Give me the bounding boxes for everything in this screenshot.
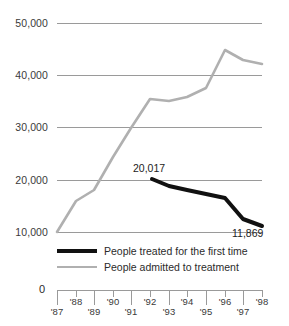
x-tick-label-93: '93 [163,307,175,317]
x-tick-label-97: '97 [237,307,249,317]
annotation-end-value: 11,869 [232,228,263,239]
y-tick-label: 30,000 [0,122,48,133]
x-tick-label-92: '92 [144,297,156,307]
x-tick-label-98: '98 [256,297,268,307]
x-tick-label-87: '87 [51,307,63,317]
chart-container: 50,000 40,000 30,000 20,000 10,000 0 20,… [0,0,289,326]
x-tick-label-89: '89 [88,307,100,317]
legend-item-admitted: People admitted to treatment [57,259,287,275]
y-tick-20000: 20,000 [0,175,52,186]
y-tick-label: 10,000 [0,227,48,238]
x-tick-label-91: '91 [125,307,137,317]
x-tick-label-94: '94 [181,297,193,307]
x-axis-ticks [58,290,263,305]
y-tick-label-zero: 0 [39,284,45,295]
series-line-first-time [152,179,262,226]
y-tick-label: 50,000 [0,18,48,29]
legend-swatch-icon [57,249,97,253]
x-tick-label-95: '95 [200,307,212,317]
legend-item-first-time: People treated for the first time [57,243,287,259]
x-tick-label-90: '90 [107,297,119,307]
legend-label: People admitted to treatment [104,262,239,273]
legend-label: People treated for the first time [104,246,248,257]
annotation-start-value: 20,017 [133,163,165,174]
y-tick-label: 40,000 [0,70,48,81]
x-tick-label-96: '96 [219,297,231,307]
y-tick-50000: 50,000 [0,18,52,29]
y-tick-10000: 10,000 [0,227,52,238]
y-tick-40000: 40,000 [0,70,52,81]
y-tick-30000: 30,000 [0,122,52,133]
x-tick-label-88: '88 [70,297,82,307]
legend-swatch-icon [57,266,97,268]
y-tick-label: 20,000 [0,175,48,186]
chart-legend: People treated for the first time People… [57,243,287,275]
